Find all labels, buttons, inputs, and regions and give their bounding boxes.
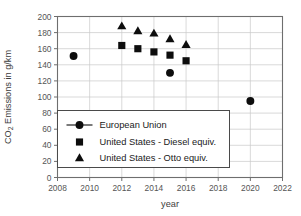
data-point-triangle (182, 40, 191, 48)
x-tick-label: 2014 (145, 183, 164, 193)
x-tick-label: 2020 (241, 183, 260, 193)
co2-emissions-scatter-chart: 0204060801001201401601802002008201020122… (0, 0, 301, 216)
x-tick-label: 2016 (177, 183, 196, 193)
data-points-group (70, 21, 255, 105)
data-point-square (166, 52, 173, 59)
y-tick-label: 160 (38, 44, 52, 54)
data-point-square (150, 48, 157, 55)
x-tick-label: 2012 (112, 183, 131, 193)
y-tick-label: 20 (42, 156, 52, 166)
y-tick-label: 40 (42, 140, 52, 150)
data-point-triangle (133, 26, 142, 34)
x-tick-label: 2022 (273, 183, 292, 193)
chart-canvas: 0204060801001201401601802002008201020122… (0, 0, 301, 216)
x-tick-label: 2008 (48, 183, 67, 193)
x-axis-ticks: 20082010201220142016201820202022 (48, 178, 292, 193)
legend-label: United States - Otto equiv. (100, 153, 208, 163)
y-axis-title-rest: Emissions in g/km (3, 50, 13, 127)
x-tick-label: 2010 (80, 183, 99, 193)
data-point-triangle (117, 21, 126, 29)
data-point-triangle (165, 34, 174, 42)
data-point-circle (70, 52, 78, 60)
data-point-circle (246, 97, 254, 105)
data-point-square (182, 57, 189, 64)
data-point-square (134, 45, 141, 52)
y-tick-label: 60 (42, 124, 52, 134)
chart-legend: European UnionUnited States - Diesel equ… (58, 111, 230, 168)
y-tick-label: 0 (47, 173, 52, 183)
y-tick-label: 100 (38, 92, 52, 102)
data-point-circle (166, 69, 174, 77)
legend-label: European Union (100, 120, 167, 130)
y-axis-title: CO2 Emissions in g/km (3, 50, 14, 144)
y-axis-ticks: 020406080100120140160180200 (38, 12, 58, 183)
x-axis-title: year (161, 199, 179, 209)
y-axis-title-base: CO (3, 130, 13, 144)
y-tick-label: 80 (42, 108, 52, 118)
legend-label: United States - Diesel equiv. (100, 137, 217, 147)
y-tick-label: 200 (38, 12, 52, 22)
y-tick-label: 180 (38, 28, 52, 38)
legend-marker-circle (76, 121, 84, 129)
y-tick-label: 120 (38, 76, 52, 86)
x-tick-label: 2018 (209, 183, 228, 193)
data-point-square (118, 42, 125, 49)
y-tick-label: 140 (38, 60, 52, 70)
legend-marker-square (76, 138, 83, 145)
